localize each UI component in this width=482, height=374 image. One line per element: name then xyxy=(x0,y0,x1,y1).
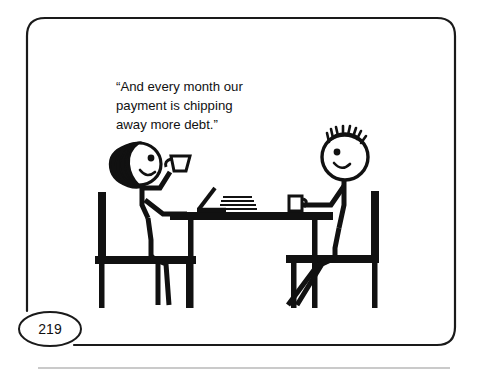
cartoon-panel-frame xyxy=(27,18,455,345)
scene xyxy=(95,126,379,308)
caption-line-3: away more debt.” xyxy=(116,117,218,132)
caption-line-2: payment is chipping xyxy=(116,98,233,113)
laptop xyxy=(197,188,226,210)
coffee-cup xyxy=(166,156,190,171)
paper-stack xyxy=(219,197,257,209)
page-number-badge: 219 xyxy=(19,312,81,346)
caption-line-1: “And every month our xyxy=(116,79,243,94)
page-number-label: 219 xyxy=(38,321,62,337)
cartoon-page: 219 “And every month our payment is chip… xyxy=(0,0,482,374)
caption-text-block: “And every month our payment is chipping… xyxy=(116,79,243,132)
cartoon-illustration: 219 “And every month our payment is chip… xyxy=(0,0,482,374)
